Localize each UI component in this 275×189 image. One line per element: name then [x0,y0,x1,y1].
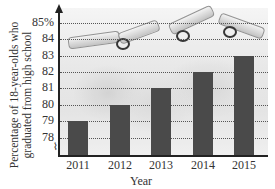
x-axis [58,155,268,157]
bar-2015 [234,56,254,155]
bar-2014 [193,72,213,155]
y-tick-80: 80 [20,97,54,112]
y-tick-78: 78 [20,130,54,145]
y-tick-83: 83 [20,48,54,63]
ribbon-bow-icon [223,26,237,38]
bar-2013 [151,88,171,155]
y-tick-79: 79 [20,113,54,128]
y-axis-arrow-icon [55,4,63,13]
axis-break-icon: ⌇ [53,141,58,152]
diploma-scroll-icon [168,5,216,36]
diploma-scroll-icon [67,30,120,49]
y-tick-82: 82 [20,64,54,79]
x-tick-2011: 2011 [58,158,98,173]
y-tick-85: 85% [20,15,54,30]
gridline [60,23,268,24]
x-tick-2015: 2015 [224,158,264,173]
x-tick-2013: 2013 [141,158,181,173]
x-tick-2012: 2012 [100,158,140,173]
bar-2011 [68,121,88,155]
x-tick-2014: 2014 [183,158,223,173]
gridline [60,39,268,40]
ribbon-bow-icon [176,30,190,42]
y-tick-81: 81 [20,80,54,95]
x-axis-label: Year [130,174,190,189]
y-axis [58,12,60,155]
y-tick-84: 84 [20,31,54,46]
bar-2012 [110,105,130,155]
